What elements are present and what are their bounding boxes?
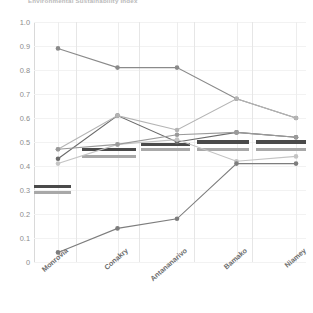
y-tick-label: 0.7 xyxy=(20,90,30,99)
series-series-4 xyxy=(56,137,299,166)
plot-area: 1.00.90.80.70.60.50.40.30.20.10 xyxy=(34,22,306,262)
data-point[interactable] xyxy=(175,133,180,138)
data-point[interactable] xyxy=(234,97,239,102)
data-point[interactable] xyxy=(175,65,180,70)
data-point[interactable] xyxy=(115,113,120,118)
series-line xyxy=(58,164,296,253)
y-tick-label: 0.4 xyxy=(20,162,30,171)
series-series-1 xyxy=(56,46,299,120)
data-point[interactable] xyxy=(115,226,120,231)
chart-title: Environmental Sustainability Index xyxy=(28,0,138,4)
y-tick-label: 0.5 xyxy=(20,138,30,147)
data-point[interactable] xyxy=(56,157,61,162)
data-point[interactable] xyxy=(115,65,120,70)
series-series-5 xyxy=(56,161,299,254)
data-point[interactable] xyxy=(294,154,299,159)
y-tick-label: 0.1 xyxy=(20,234,30,243)
series-line xyxy=(58,48,296,118)
chart-container: Environmental Sustainability Index 1.00.… xyxy=(0,0,313,313)
data-point[interactable] xyxy=(56,147,61,152)
data-point[interactable] xyxy=(56,46,61,51)
data-point[interactable] xyxy=(175,137,180,142)
data-point[interactable] xyxy=(294,135,299,140)
data-point[interactable] xyxy=(234,130,239,135)
y-tick-label: 0.2 xyxy=(20,210,30,219)
data-point[interactable] xyxy=(294,116,299,121)
y-tick-label: 0 xyxy=(26,258,30,267)
data-point[interactable] xyxy=(175,217,180,222)
data-point[interactable] xyxy=(115,142,120,147)
data-point[interactable] xyxy=(175,128,180,133)
y-tick-label: 0.8 xyxy=(20,66,30,75)
data-point[interactable] xyxy=(56,161,61,166)
data-point[interactable] xyxy=(234,161,239,166)
series-layer xyxy=(34,22,306,262)
y-tick-label: 0.3 xyxy=(20,186,30,195)
y-tick-label: 0.6 xyxy=(20,114,30,123)
series-series-2 xyxy=(56,113,299,161)
data-point[interactable] xyxy=(294,161,299,166)
y-tick-label: 1.0 xyxy=(20,18,30,27)
y-tick-label: 0.9 xyxy=(20,42,30,51)
